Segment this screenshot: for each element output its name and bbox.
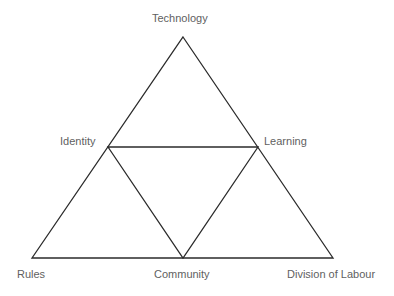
node-label-rules: Rules [17,268,45,281]
triangle-lines [0,0,394,296]
activity-triangle-diagram: Technology Identity Learning Rules Commu… [0,0,394,296]
node-label-identity: Identity [60,135,95,148]
node-label-learning: Learning [264,135,307,148]
node-label-division-of-labour: Division of Labour [287,268,375,281]
inner-triangle [108,147,258,258]
node-label-community: Community [154,268,210,281]
node-label-technology: Technology [152,12,208,25]
